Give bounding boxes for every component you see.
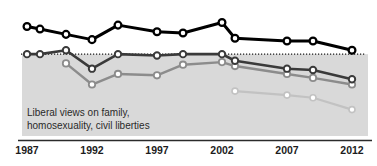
series-1-point <box>115 22 122 29</box>
series-3-point <box>63 60 69 66</box>
series-1-point <box>24 23 31 30</box>
series-2-point <box>284 65 290 71</box>
series-1-point <box>310 38 317 45</box>
x-tick-label: 1987 <box>15 144 39 156</box>
x-axis-tick-labels: 198719921997200220072012 <box>15 144 364 156</box>
series-2-point <box>63 47 69 53</box>
annotation-line-2: homosexuality, civil liberties <box>27 120 150 131</box>
x-tick-label: 1997 <box>145 144 169 156</box>
series-2-point <box>24 51 30 57</box>
series-3-point <box>115 71 121 77</box>
series-2-point <box>115 51 121 57</box>
series-3-point <box>310 75 316 81</box>
series-1-point <box>180 30 187 37</box>
series-3-point <box>180 62 186 68</box>
series-3-point <box>154 72 160 78</box>
series-2-point <box>310 67 316 73</box>
series-1-line <box>27 22 352 50</box>
series-4-point <box>284 92 290 98</box>
series-4-point <box>349 107 355 113</box>
series-1-point <box>89 36 96 43</box>
series-1 <box>24 19 356 54</box>
series-1-point <box>232 35 239 42</box>
series-4-point <box>232 88 238 94</box>
series-3-point <box>219 59 225 65</box>
x-tick-label: 2012 <box>340 144 364 156</box>
series-2-point <box>232 58 238 64</box>
series-1-point <box>63 31 70 38</box>
chart-canvas: Liberal views on family, homosexuality, … <box>0 0 377 166</box>
series-1-point <box>284 38 291 45</box>
x-tick-label: 2007 <box>275 144 299 156</box>
series-2-point <box>180 51 186 57</box>
line-chart: Liberal views on family, homosexuality, … <box>0 0 377 166</box>
series-2-point <box>219 51 225 57</box>
series-3-point <box>89 81 95 87</box>
series-2-point <box>89 65 95 71</box>
x-tick-label: 2002 <box>210 144 234 156</box>
series-1-point <box>37 26 44 33</box>
series-1-point <box>349 47 356 54</box>
x-tick-label: 1992 <box>80 144 104 156</box>
series-1-point <box>154 28 161 35</box>
annotation-line-1: Liberal views on family, <box>27 107 130 118</box>
series-2-point <box>349 76 355 82</box>
series-4-point <box>310 95 316 101</box>
series-1-point <box>219 19 226 26</box>
series-2-point <box>154 52 160 58</box>
series-2-point <box>37 51 43 57</box>
